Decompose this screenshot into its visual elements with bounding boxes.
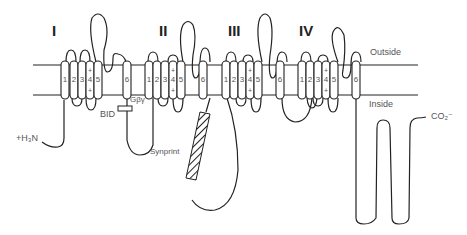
svg-text:4: 4 xyxy=(88,75,93,84)
bid-box xyxy=(118,106,132,111)
c-terminus-label: CO₂⁻ xyxy=(431,111,453,121)
svg-text:2: 2 xyxy=(155,75,160,84)
svg-text:+: + xyxy=(324,67,328,74)
svg-text:1: 1 xyxy=(300,75,305,84)
gbetagamma-label: Gβγ xyxy=(130,95,145,104)
domain-iv-label: IV xyxy=(299,22,313,39)
svg-text:6: 6 xyxy=(278,75,283,84)
svg-text:+: + xyxy=(248,87,252,94)
svg-text:+: + xyxy=(171,87,175,94)
domain-ii-label: II xyxy=(159,22,167,39)
domain-iii-label: III xyxy=(228,22,241,39)
svg-text:4: 4 xyxy=(248,75,253,84)
svg-text:+: + xyxy=(171,67,175,74)
svg-text:3: 3 xyxy=(316,75,321,84)
outside-label: Outside xyxy=(370,47,401,57)
svg-text:6: 6 xyxy=(201,75,206,84)
svg-text:1: 1 xyxy=(63,75,68,84)
svg-text:2: 2 xyxy=(308,75,313,84)
svg-text:4: 4 xyxy=(324,75,329,84)
svg-text:1: 1 xyxy=(224,75,229,84)
svg-text:3: 3 xyxy=(240,75,245,84)
svg-text:1: 1 xyxy=(147,75,152,84)
svg-text:+: + xyxy=(88,87,92,94)
calcium-channel-topology-diagram: 123456 123456 123456 123456 ++ ++ ++ ++ … xyxy=(0,0,467,235)
svg-text:4: 4 xyxy=(171,75,176,84)
n-terminus-chain xyxy=(42,100,64,147)
svg-text:3: 3 xyxy=(80,75,85,84)
svg-text:2: 2 xyxy=(232,75,237,84)
svg-text:5: 5 xyxy=(96,75,101,84)
svg-text:6: 6 xyxy=(125,75,130,84)
c-terminus-chain xyxy=(356,98,426,224)
synprint-bar xyxy=(186,112,210,180)
synprint-label: Synprint xyxy=(150,147,179,156)
inside-label: Inside xyxy=(369,99,393,109)
bid-label: BID xyxy=(100,109,115,119)
svg-text:+: + xyxy=(248,67,252,74)
svg-text:5: 5 xyxy=(179,75,184,84)
svg-text:5: 5 xyxy=(256,75,261,84)
svg-text:3: 3 xyxy=(163,75,168,84)
n-terminus-label: +H₃N xyxy=(16,133,38,143)
svg-text:5: 5 xyxy=(332,75,337,84)
svg-text:6: 6 xyxy=(354,75,359,84)
svg-text:+: + xyxy=(324,87,328,94)
svg-text:+: + xyxy=(88,67,92,74)
svg-text:2: 2 xyxy=(72,75,77,84)
domain-i-label: I xyxy=(52,22,56,39)
